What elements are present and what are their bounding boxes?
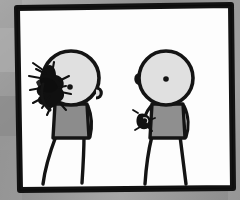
screenshot-root: Comic panel with two stick figures hand-… — [0, 0, 240, 200]
right-figure-ear — [136, 74, 141, 84]
left-figure-eye — [67, 84, 73, 90]
left-figure-torso — [53, 104, 89, 138]
right-figure-torso — [150, 104, 185, 138]
right-figure-eye — [163, 76, 169, 82]
comic-artwork — [0, 0, 240, 200]
comic-panel-svg — [0, 0, 240, 200]
left-figure-leg-right — [82, 136, 84, 183]
left-figure-ear — [96, 88, 101, 98]
